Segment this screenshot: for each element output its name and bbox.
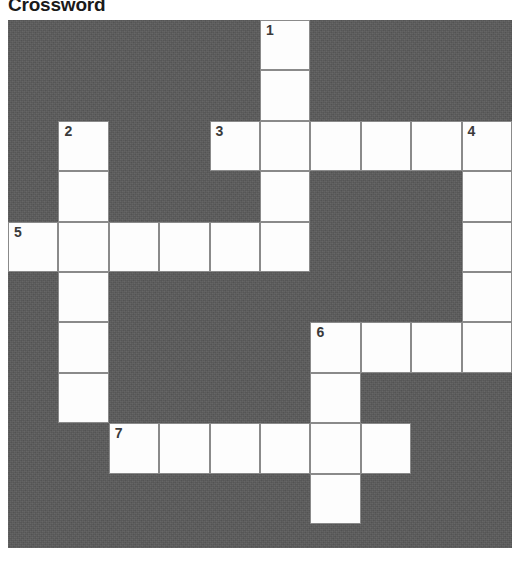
crossword-cell[interactable] (210, 222, 260, 272)
crossword-cell[interactable] (310, 474, 360, 524)
cell-number: 2 (64, 124, 72, 139)
crossword-cell-5[interactable]: 5 (8, 222, 58, 272)
cell-number: 1 (266, 23, 274, 38)
crossword-cell[interactable] (58, 222, 108, 272)
crossword-cell[interactable] (58, 322, 108, 372)
crossword-cell[interactable] (109, 222, 159, 272)
crossword-cell[interactable] (58, 272, 108, 322)
crossword-cell[interactable] (462, 222, 512, 272)
crossword-cell[interactable] (310, 423, 360, 473)
crossword-cell[interactable] (159, 423, 209, 473)
cell-number: 4 (468, 124, 476, 139)
cell-number: 5 (14, 225, 22, 240)
crossword-cell[interactable] (260, 121, 310, 171)
crossword-cell[interactable] (260, 171, 310, 221)
crossword-cell[interactable] (210, 423, 260, 473)
crossword-cell[interactable] (310, 121, 360, 171)
crossword-cell[interactable] (361, 121, 411, 171)
crossword-cell[interactable] (462, 322, 512, 372)
crossword-cell[interactable] (260, 423, 310, 473)
page-title: Crossword (8, 0, 105, 16)
crossword-cell[interactable] (260, 222, 310, 272)
crossword-cell-1[interactable]: 1 (260, 20, 310, 70)
crossword-cell[interactable] (361, 423, 411, 473)
crossword-cell[interactable] (58, 171, 108, 221)
crossword-cell[interactable] (310, 373, 360, 423)
crossword-grid[interactable]: 1234567 (8, 20, 512, 548)
crossword-cell[interactable] (462, 272, 512, 322)
crossword-cell[interactable] (260, 70, 310, 120)
crossword-cell[interactable] (58, 373, 108, 423)
cell-number: 3 (216, 124, 224, 139)
crossword-cell-7[interactable]: 7 (109, 423, 159, 473)
crossword-cell[interactable] (411, 121, 461, 171)
crossword-cell[interactable] (361, 322, 411, 372)
crossword-cell[interactable] (462, 171, 512, 221)
crossword-cell-4[interactable]: 4 (462, 121, 512, 171)
cell-number: 7 (115, 426, 123, 441)
crossword-cell-6[interactable]: 6 (310, 322, 360, 372)
crossword-cell[interactable] (159, 222, 209, 272)
cell-number: 6 (316, 325, 324, 340)
crossword-cell-3[interactable]: 3 (210, 121, 260, 171)
crossword-cell-2[interactable]: 2 (58, 121, 108, 171)
crossword-cell[interactable] (411, 322, 461, 372)
